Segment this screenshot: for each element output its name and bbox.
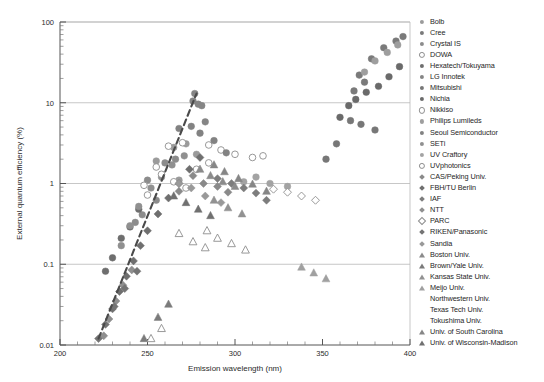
legend-item-label: Boston Univ. bbox=[430, 251, 470, 259]
data-point bbox=[188, 123, 195, 130]
legend-item[interactable]: Nichia bbox=[418, 94, 450, 105]
data-point bbox=[201, 244, 209, 251]
data-point bbox=[363, 89, 370, 96]
data-point bbox=[232, 151, 239, 158]
legend-item[interactable]: Nikkiso bbox=[418, 105, 453, 116]
legend-marker-circle-icon bbox=[418, 18, 426, 26]
data-point bbox=[182, 198, 190, 205]
data-point bbox=[207, 211, 215, 218]
legend-item-label: FBH/TU Berlin bbox=[430, 184, 476, 192]
data-point bbox=[189, 238, 197, 245]
x-tick-label: 350 bbox=[316, 349, 329, 358]
legend-item[interactable]: Northwestern Univ. bbox=[418, 294, 490, 305]
legend-item[interactable]: Seoul Semiconductor bbox=[418, 127, 498, 138]
legend-marker-circle-open-icon bbox=[418, 51, 426, 59]
legend-item[interactable]: FBH/TU Berlin bbox=[418, 183, 476, 194]
legend-item[interactable]: Cree bbox=[418, 27, 446, 38]
data-point bbox=[224, 188, 232, 196]
legend-item[interactable]: Crystal IS bbox=[418, 38, 461, 49]
legend-item[interactable]: NTT bbox=[418, 205, 444, 216]
series-22 bbox=[140, 300, 172, 342]
data-point bbox=[242, 246, 250, 253]
legend-item[interactable]: Boston Univ. bbox=[418, 249, 470, 260]
legend-marker-triangle-open-icon bbox=[418, 295, 426, 303]
legend-item[interactable]: PARC bbox=[418, 216, 449, 227]
data-point bbox=[186, 165, 194, 173]
data-point bbox=[207, 171, 215, 178]
data-point bbox=[310, 269, 318, 276]
legend-marker-circle-icon bbox=[418, 129, 426, 137]
x-tick-label: 200 bbox=[54, 349, 67, 358]
legend-item[interactable]: RIKEN/Panasonic bbox=[418, 227, 487, 238]
data-point bbox=[148, 185, 155, 192]
legend-item-label: Tokushima Univ. bbox=[430, 317, 482, 325]
legend-item-label: Bolb bbox=[430, 18, 444, 26]
data-point bbox=[238, 210, 246, 217]
data-point bbox=[361, 69, 368, 76]
legend-item[interactable]: Univ. of South Carolina bbox=[418, 327, 503, 338]
data-point bbox=[223, 149, 230, 156]
data-point bbox=[263, 196, 271, 204]
legend-item[interactable]: Kansas State Univ. bbox=[418, 271, 490, 282]
data-point bbox=[211, 137, 218, 144]
data-point bbox=[153, 164, 160, 171]
legend-item[interactable]: Brown/Yale Univ. bbox=[418, 260, 484, 271]
legend-item-label: Cree bbox=[430, 29, 446, 37]
data-point bbox=[200, 180, 208, 188]
chart-legend: BolbCreeCrystal ISDOWAHexatech/TokuyamaL… bbox=[418, 16, 544, 366]
legend-item[interactable]: Bolb bbox=[418, 16, 444, 27]
legend-marker-circle-icon bbox=[418, 40, 426, 48]
data-point bbox=[141, 182, 148, 189]
legend-item[interactable]: Texas Tech Univ. bbox=[418, 305, 483, 316]
legend-item[interactable]: UV Craftory bbox=[418, 149, 467, 160]
data-point bbox=[249, 154, 256, 161]
legend-item[interactable]: Meijo Univ. bbox=[418, 282, 465, 293]
legend-marker-diamond-icon bbox=[418, 240, 426, 248]
legend-item[interactable]: SETi bbox=[418, 138, 445, 149]
data-point bbox=[322, 275, 330, 282]
data-point bbox=[323, 156, 330, 163]
data-point bbox=[396, 63, 403, 70]
data-point bbox=[127, 222, 134, 229]
series-12 bbox=[240, 174, 290, 190]
legend-item-label: Texas Tech Univ. bbox=[430, 306, 483, 314]
legend-item[interactable]: DOWA bbox=[418, 49, 452, 60]
legend-item[interactable]: Univ. of Wisconsin-Madison bbox=[418, 338, 517, 349]
data-point bbox=[135, 203, 142, 210]
legend-item[interactable]: IAF bbox=[418, 194, 441, 205]
legend-item[interactable]: CAS/Peking Univ. bbox=[418, 171, 486, 182]
data-point bbox=[154, 313, 162, 320]
data-point bbox=[361, 79, 368, 86]
legend-item[interactable]: Philips Lumileds bbox=[418, 116, 481, 127]
legend-item[interactable]: Tokushima Univ. bbox=[418, 316, 482, 327]
legend-item-label: NTT bbox=[430, 206, 444, 214]
legend-item[interactable]: Sandia bbox=[418, 238, 452, 249]
data-point bbox=[235, 174, 243, 181]
series-24 bbox=[298, 263, 330, 282]
data-point bbox=[347, 117, 354, 124]
legend-item[interactable]: Mitsubishi bbox=[418, 83, 462, 94]
series-23 bbox=[210, 196, 246, 217]
data-point bbox=[253, 174, 260, 181]
series-27 bbox=[147, 324, 165, 341]
legend-item[interactable]: Hexatech/Tokuyama bbox=[418, 60, 495, 71]
legend-marker-diamond-icon bbox=[418, 228, 426, 236]
legend-marker-triangle-open-icon bbox=[418, 317, 426, 325]
data-point bbox=[284, 188, 292, 196]
legend-marker-triangle-icon bbox=[418, 262, 426, 270]
y-tick-label: 1 bbox=[50, 179, 54, 188]
legend-marker-circle-icon bbox=[418, 151, 426, 159]
data-point bbox=[175, 229, 183, 236]
x-tick-label: 300 bbox=[229, 349, 242, 358]
data-point bbox=[333, 140, 340, 147]
x-tick-label: 400 bbox=[404, 349, 417, 358]
legend-item-label: Hexatech/Tokuyama bbox=[430, 62, 495, 70]
data-point bbox=[351, 88, 358, 95]
legend-item[interactable]: UVphotonics bbox=[418, 160, 471, 171]
data-point bbox=[109, 255, 116, 262]
legend-marker-circle-icon bbox=[418, 84, 426, 92]
legend-marker-diamond-open-icon bbox=[418, 217, 426, 225]
legend-item-label: PARC bbox=[430, 217, 449, 225]
legend-item[interactable]: LG Innotek bbox=[418, 72, 465, 83]
data-point bbox=[394, 42, 401, 49]
